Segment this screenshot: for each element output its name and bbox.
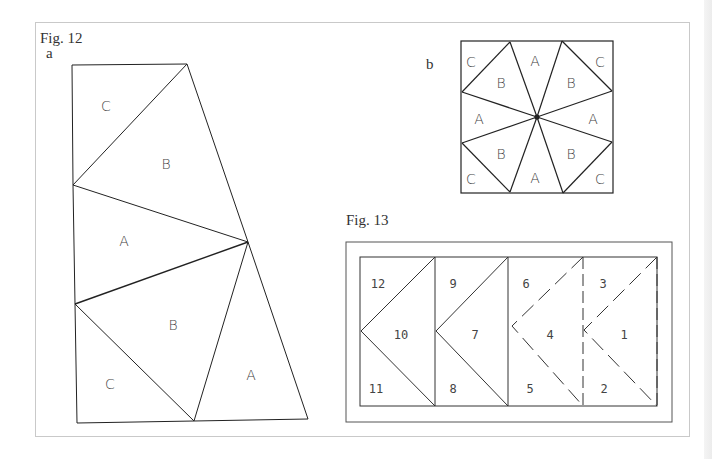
region-label: B bbox=[496, 75, 505, 91]
piece-number: 8 bbox=[449, 382, 456, 396]
region-label: B bbox=[566, 146, 575, 162]
piece-number: 4 bbox=[546, 328, 553, 342]
diagram-canvas: C B A B C A C A C B bbox=[0, 0, 712, 459]
region-label: A bbox=[588, 111, 598, 127]
piece-number: 5 bbox=[526, 382, 533, 396]
region-label: A bbox=[474, 111, 484, 127]
piece-number: 3 bbox=[599, 277, 606, 291]
piece-number: 7 bbox=[471, 328, 478, 342]
region-label: B bbox=[496, 146, 505, 162]
piece-number: 9 bbox=[449, 277, 456, 291]
region-label: B bbox=[566, 75, 575, 91]
region-label: C bbox=[105, 376, 115, 392]
region-label: C bbox=[466, 54, 476, 70]
region-label: B bbox=[161, 156, 170, 172]
fig12a-edge bbox=[75, 242, 248, 304]
fig12a-labels: C B A B C A bbox=[101, 98, 256, 392]
piece-number: 10 bbox=[394, 328, 408, 342]
region-label: C bbox=[595, 54, 605, 70]
region-label: B bbox=[168, 317, 177, 333]
piece-number: 12 bbox=[371, 277, 385, 291]
fig12a-pattern bbox=[72, 64, 308, 423]
fig12a-outline bbox=[72, 64, 308, 423]
fig12a-edge bbox=[194, 242, 248, 421]
piece-number: 2 bbox=[600, 382, 607, 396]
piece-number: 6 bbox=[522, 277, 529, 291]
center-point bbox=[535, 115, 539, 119]
region-label: A bbox=[246, 367, 256, 383]
piece-number: 11 bbox=[369, 382, 383, 396]
page: Fig. 12 a b Fig. 13 C B A B C A bbox=[0, 0, 712, 459]
region-label: C bbox=[466, 171, 476, 187]
region-label: C bbox=[101, 98, 111, 114]
piece-number: 1 bbox=[620, 328, 627, 342]
region-label: C bbox=[595, 171, 605, 187]
region-label: A bbox=[119, 233, 129, 249]
region-label: A bbox=[530, 170, 540, 186]
region-label: A bbox=[530, 53, 540, 69]
fig12a-edge bbox=[73, 185, 248, 242]
